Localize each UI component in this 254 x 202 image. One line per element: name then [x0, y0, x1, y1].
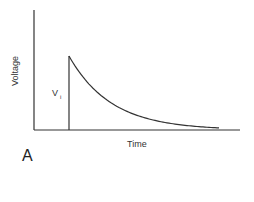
vi-main: V	[52, 88, 58, 98]
y-axis-label: Voltage	[10, 56, 20, 86]
vi-subscript: i	[60, 94, 61, 100]
decay-curve	[69, 56, 219, 128]
x-axis-label: Time	[127, 139, 147, 149]
chart-canvas	[0, 0, 254, 202]
vi-annotation: Vi	[52, 88, 61, 100]
panel-label: A	[22, 147, 33, 165]
